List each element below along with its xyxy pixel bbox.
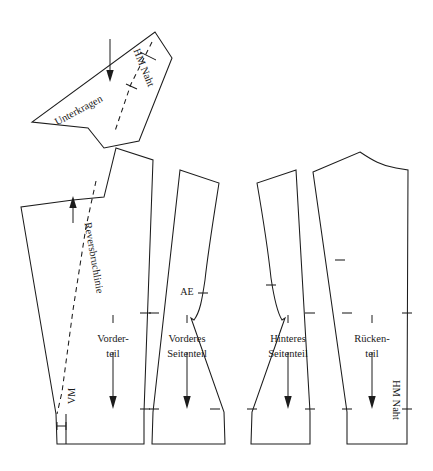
vorderteil-grainline (109, 315, 116, 409)
vorderes-seitenteil-label-line2: Seitenteil (167, 348, 207, 359)
ae-label: AE (180, 286, 193, 297)
unterkragen-grainline (106, 39, 113, 82)
piece-vorderteil: Reversbruchlinie VM Vorder- teil (21, 148, 153, 444)
rueckenteil-label-line1: Rücken- (354, 333, 390, 344)
vorderes-seitenteil-grainline (183, 315, 190, 409)
piece-rueckenteil: Rücken- teil HM Naht (313, 152, 412, 444)
pattern-sheet: HM Naht Unterkragen (0, 0, 433, 471)
piece-vorderes-seitenteil: AE Vorderes Seitenteil (149, 170, 225, 444)
unterkragen-hm-naht-label: HM Naht (131, 47, 156, 88)
vorderteil-label-line2: teil (106, 348, 119, 359)
rueckenteil-label-line2: teil (365, 348, 378, 359)
vorderteil-label-line1: Vorder- (97, 333, 129, 344)
hinteres-seitenteil-label-line1: Hinteres (270, 333, 306, 344)
vorderteil-outline (21, 148, 153, 444)
hinteres-seitenteil-outline (251, 170, 310, 444)
unterkragen-label: Unterkragen (53, 93, 105, 128)
hinteres-seitenteil-label-line2: Seitenteil (268, 348, 308, 359)
piece-unterkragen: HM Naht Unterkragen (32, 32, 172, 148)
pattern-diagram: HM Naht Unterkragen (0, 0, 433, 471)
vorderteil-reversbruchlinie (57, 181, 96, 414)
unterkragen-outline (32, 32, 172, 148)
vorderteil-reversbruchlinie-label: Reversbruchlinie (82, 222, 105, 295)
vorderteil-vm-dimension (57, 422, 66, 430)
rueckenteil-hm-naht-label: HM Naht (391, 380, 402, 420)
vorderes-seitenteil-label-line1: Vorderes (168, 333, 205, 344)
unterkragen-fold-tick (126, 84, 137, 89)
piece-hinteres-seitenteil: Hinteres Seitenteil (247, 170, 315, 444)
vorderteil-vm-label: VM (66, 388, 77, 404)
hinteres-seitenteil-grainline (284, 315, 291, 409)
rueckenteil-grainline (368, 315, 375, 409)
